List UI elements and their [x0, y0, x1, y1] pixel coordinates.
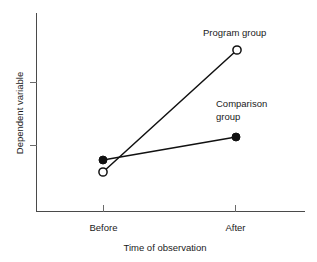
x-tick-label-before: Before — [90, 222, 118, 233]
series-comparison-group — [99, 133, 240, 164]
data-point-program-after — [233, 46, 241, 54]
y-axis-title: Dependent variable — [14, 72, 25, 154]
chart-container: Program group Comparison group Before Af… — [0, 0, 317, 262]
series-label-program-group: Program group — [203, 27, 266, 38]
series-label-comparison-group-line1: Comparison — [216, 98, 267, 109]
x-axis-title: Time of observation — [123, 242, 206, 253]
x-tick-label-after: After — [225, 222, 245, 233]
data-point-program-before — [99, 168, 107, 176]
series-label-comparison-group-line2: group — [216, 111, 240, 122]
data-point-comparison-before — [99, 156, 107, 164]
axes-group — [37, 13, 306, 212]
line-chart-plot: Program group Comparison group Before Af… — [0, 0, 317, 262]
series-line-comparison-group — [103, 137, 236, 160]
data-point-comparison-after — [232, 133, 240, 141]
